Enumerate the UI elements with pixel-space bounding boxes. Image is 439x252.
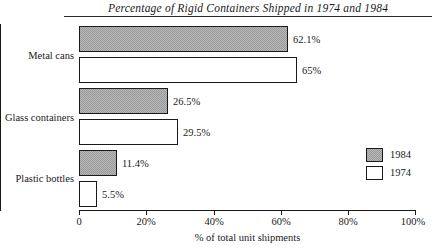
bar-plastic-bottles-1974[interactable]: [79, 181, 97, 207]
x-tick-mark-20: [146, 210, 147, 215]
bar-metal-cans-1974[interactable]: [79, 57, 297, 83]
x-tick-mark-100: [415, 210, 416, 215]
x-tick-label-0: 0: [57, 217, 101, 228]
chart-page: Percentage of Rigid Containers Shipped i…: [0, 0, 439, 252]
legend-swatch-1974-icon: [366, 166, 383, 180]
chart-title: Percentage of Rigid Containers Shipped i…: [64, 2, 432, 17]
x-tick-mark-0: [79, 210, 80, 215]
plot-area: [79, 24, 415, 210]
bar-glass-containers-1974[interactable]: [79, 119, 178, 145]
x-tick-label-100: 100%: [391, 217, 435, 228]
category-axis-labels: Metal cans Glass containers Plastic bott…: [0, 0, 74, 252]
category-label-plastic-bottles: Plastic bottles: [0, 174, 74, 185]
x-axis-line: [79, 210, 416, 211]
category-label-metal-cans: Metal cans: [0, 51, 74, 62]
legend-item-1974[interactable]: 1974: [366, 166, 411, 180]
category-label-glass-containers: Glass containers: [0, 113, 74, 124]
x-tick-mark-40: [214, 210, 215, 215]
legend-label-1984: 1984: [390, 150, 411, 161]
x-axis-title: % of total unit shipments: [79, 233, 416, 244]
x-tick-label-40: 40%: [192, 217, 236, 228]
x-tick-label-80: 80%: [326, 217, 370, 228]
x-tick-label-20: 20%: [124, 217, 168, 228]
x-tick-mark-60: [281, 210, 282, 215]
value-label-glass-containers-1974: 29.5%: [183, 128, 210, 139]
bar-plastic-bottles-1984[interactable]: [79, 150, 117, 176]
x-tick-mark-80: [348, 210, 349, 215]
value-label-plastic-bottles-1984: 11.4%: [122, 159, 149, 170]
legend: 1984 1974: [366, 148, 411, 184]
value-label-glass-containers-1984: 26.5%: [173, 97, 200, 108]
value-label-plastic-bottles-1974: 5.5%: [102, 190, 124, 201]
legend-swatch-1984-icon: [366, 148, 383, 162]
legend-label-1974: 1974: [390, 168, 411, 179]
bar-metal-cans-1984[interactable]: [79, 26, 288, 52]
value-label-metal-cans-1984: 62.1%: [293, 35, 320, 46]
bar-glass-containers-1984[interactable]: [79, 88, 168, 114]
legend-item-1984[interactable]: 1984: [366, 148, 411, 162]
x-tick-label-60: 60%: [259, 217, 303, 228]
value-label-metal-cans-1974: 65%: [302, 66, 321, 77]
